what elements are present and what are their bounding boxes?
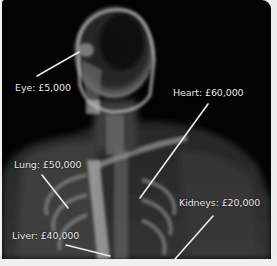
eye-leader-line: [37, 52, 79, 76]
kidneys-price-label: Kidneys: £20,000: [179, 197, 260, 208]
liver-price-label: Liver: £40,000: [12, 230, 79, 241]
skull: [74, 6, 154, 114]
heart-price-label: Heart: £60,000: [173, 87, 244, 98]
lung-price-label: Lung: £50,000: [14, 159, 81, 170]
eye-price-label: Eye: £5,000: [15, 82, 71, 93]
frame-right-edge: [271, 0, 277, 266]
xray-image-panel: Eye: £5,000 Heart: £60,000 Lung: £50,000…: [2, 0, 271, 259]
frame-bottom-edge: [0, 259, 277, 266]
xray-body-illustration: [2, 0, 271, 259]
